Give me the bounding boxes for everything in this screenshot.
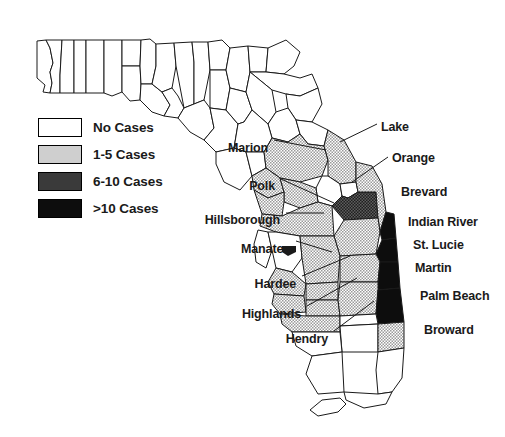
florida-keys	[310, 398, 346, 416]
label-marion: Marion	[228, 142, 268, 155]
label-brevard: Brevard	[401, 186, 447, 199]
legend-swatch-1-5-cases	[38, 145, 82, 164]
county-collier	[306, 352, 344, 394]
legend-label-over-10-cases: >10 Cases	[93, 201, 159, 216]
legend-label-no-cases: No Cases	[93, 120, 154, 135]
county-palm-beach	[376, 288, 404, 324]
legend-swatch-6-10-cases	[38, 172, 82, 191]
label-broward: Broward	[424, 324, 474, 337]
label-polk: Polk	[249, 180, 275, 193]
legend-item-1-5-cases: 1-5 Cases	[38, 141, 188, 168]
label-palm-beach: Palm Beach	[420, 290, 489, 303]
label-manatee: Manatee	[241, 243, 290, 256]
legend-swatch-no-cases	[38, 118, 82, 137]
county-volusia	[324, 130, 356, 184]
county-bay	[104, 40, 122, 96]
county-monroe-mainland	[344, 392, 392, 408]
label-hillsborough: Hillsborough	[205, 214, 280, 227]
county-madison	[192, 42, 210, 104]
county-desoto	[306, 300, 340, 316]
label-st-lucie: St. Lucie	[413, 239, 464, 252]
legend-item-6-10-cases: 6-10 Cases	[38, 168, 188, 195]
county-hendry	[340, 324, 378, 352]
county-broward	[378, 322, 404, 352]
leader-lake	[340, 124, 377, 142]
legend-item-over-10-cases: >10 Cases	[38, 195, 188, 222]
county-calhoun-gulf	[122, 66, 141, 101]
label-lake: Lake	[381, 121, 409, 134]
county-polk	[300, 236, 340, 284]
map-legend: No Cases 1-5 Cases 6-10 Cases >10 Cases	[38, 114, 188, 222]
label-indian-river: Indian River	[408, 216, 478, 229]
county-okaloosa	[60, 40, 74, 93]
florida-case-map-figure: No Cases 1-5 Cases 6-10 Cases >10 Cases …	[0, 0, 505, 437]
legend-label-1-5-cases: 1-5 Cases	[93, 147, 155, 162]
legend-label-6-10-cases: 6-10 Cases	[93, 174, 163, 189]
county-miami-dade	[376, 348, 404, 394]
county-walton	[74, 40, 86, 93]
label-hardee: Hardee	[255, 278, 296, 291]
county-holmes-washington	[86, 40, 104, 93]
county-baker	[248, 46, 268, 72]
label-orange: Orange	[392, 152, 435, 165]
label-highlands: Highlands	[242, 308, 301, 321]
county-nassau	[266, 40, 300, 74]
county-jackson	[122, 40, 141, 66]
county-st-lucie	[376, 238, 398, 262]
label-martin: Martin	[415, 262, 452, 275]
county-columbia	[226, 46, 250, 92]
label-hendry: Hendry	[286, 333, 328, 346]
legend-item-no-cases: No Cases	[38, 114, 188, 141]
county-leon	[152, 43, 176, 92]
county-osceola	[334, 218, 380, 256]
county-martin	[378, 262, 400, 290]
legend-swatch-over-10-cases	[38, 199, 82, 218]
county-highlands	[338, 282, 378, 316]
